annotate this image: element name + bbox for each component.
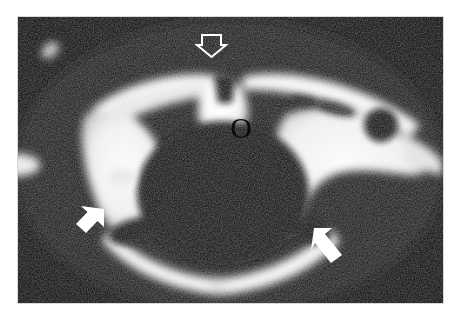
ct-scan-plate: O <box>18 17 443 303</box>
letter-label-o: O <box>224 113 258 143</box>
figure-root: O <box>0 0 458 321</box>
ct-scan-image <box>18 17 443 303</box>
